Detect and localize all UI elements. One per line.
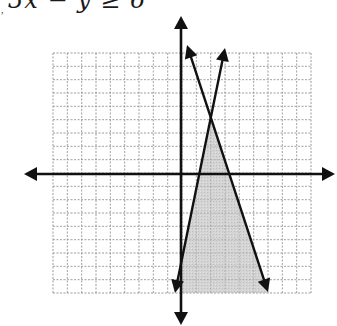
y-axis-bottom-arrow-icon [174, 312, 188, 325]
y-axis-top-arrow-icon [174, 16, 188, 29]
line-a-top-arrow-icon [216, 48, 229, 62]
x-axis-left-arrow-icon [24, 167, 37, 181]
x-axis-right-arrow-icon [322, 167, 335, 181]
line-b-top-arrow-icon [185, 45, 197, 59]
coordinate-plane [0, 0, 337, 326]
